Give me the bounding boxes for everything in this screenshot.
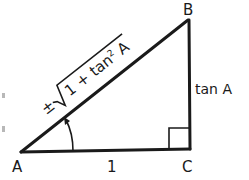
hypotenuse-label: ± 1 + tan2 A bbox=[36, 34, 135, 119]
vertex-label-B: B bbox=[183, 1, 193, 19]
side-hypotenuse-AB bbox=[21, 20, 188, 152]
vertex-label-C: C bbox=[182, 158, 192, 176]
scan-artifacts bbox=[2, 93, 5, 132]
base-label: 1 bbox=[107, 158, 117, 176]
side-base-AC bbox=[21, 149, 190, 152]
opposite-label: tan A bbox=[195, 81, 232, 97]
angle-arc-A bbox=[66, 120, 73, 151]
right-angle-marker bbox=[169, 128, 189, 148]
plus-minus-sign: ± bbox=[38, 97, 59, 119]
triangle-diagram: A B C 1 tan A ± 1 + tan2 A bbox=[0, 0, 249, 180]
vertex-label-A: A bbox=[12, 158, 23, 176]
side-opposite-BC bbox=[189, 20, 190, 149]
